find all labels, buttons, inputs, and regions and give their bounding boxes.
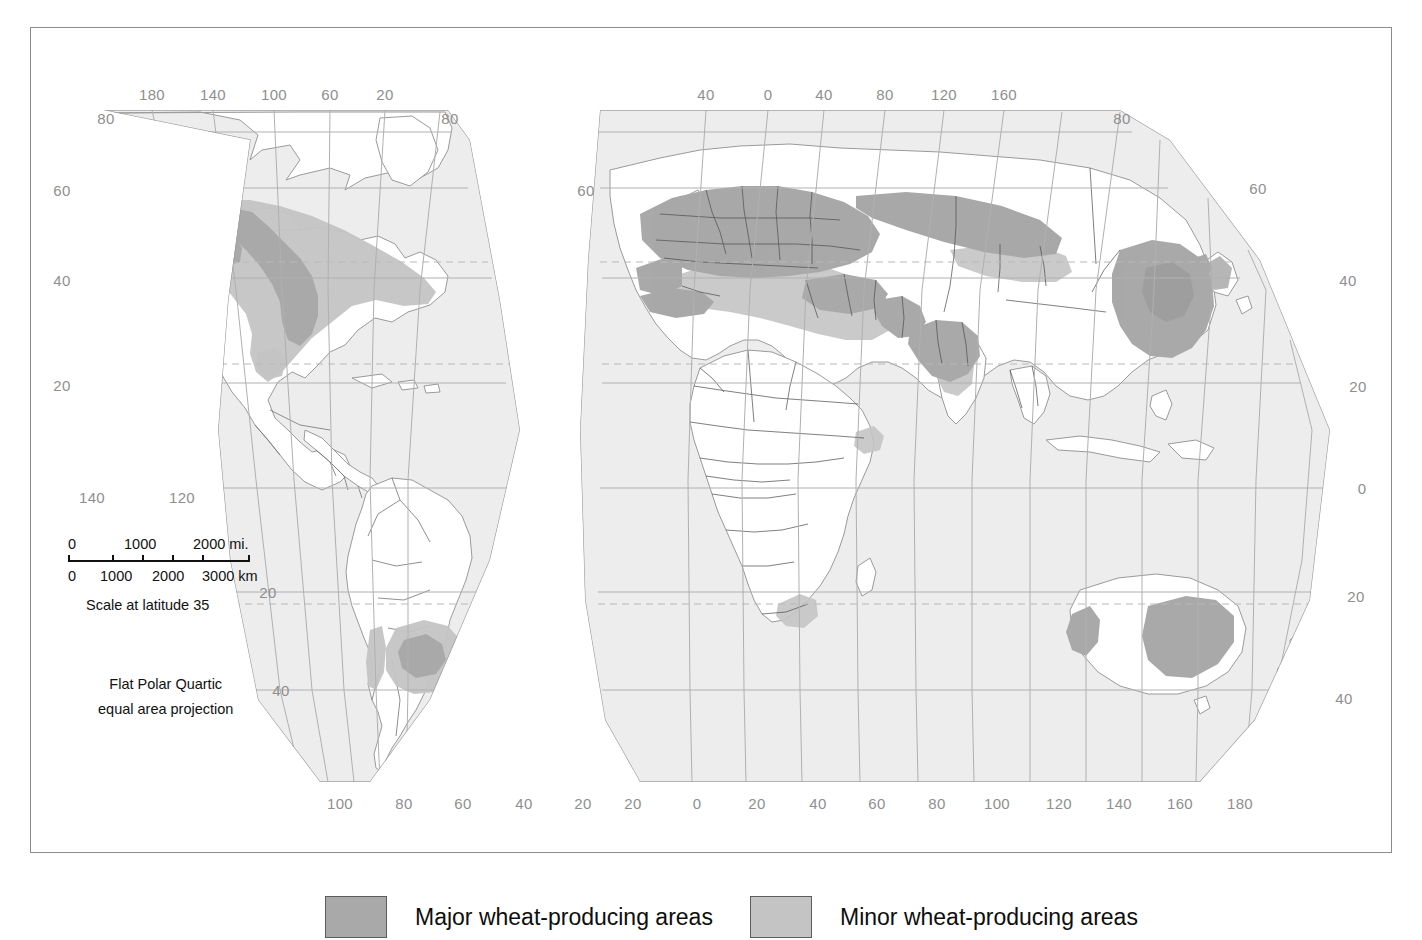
projection-type: equal area projection	[98, 697, 233, 722]
graticule-label-right-lat-4: 20	[1347, 588, 1364, 605]
graticule-label-top-right-lobe-3: 80	[876, 86, 893, 103]
scale-miles-1000: 1000	[124, 536, 156, 552]
legend-item-major: Major wheat-producing areas	[325, 896, 713, 938]
graticule-label-bottom-right-lobe-10: 180	[1227, 795, 1253, 812]
graticule-label-bottom-right-lobe-3: 40	[809, 795, 826, 812]
graticule-label-samerica-lat-1: 40	[272, 682, 289, 699]
graticule-label-top-left-lobe-3: 60	[321, 86, 338, 103]
graticule-label-right-lat-1: 40	[1339, 272, 1356, 289]
graticule-label-bottom-left-lobe-1: 80	[395, 795, 412, 812]
graticule-label-top-left-lobe-4: 20	[376, 86, 393, 103]
graticule-label-left-lat-1: 40	[53, 272, 70, 289]
graticule-label-top-right-lobe-5: 160	[991, 86, 1017, 103]
scale-latitude-note: Scale at latitude 35	[68, 597, 288, 613]
graticule-label-top-right-lobe-1: 0	[764, 86, 773, 103]
projection-note: Flat Polar Quartic equal area projection	[98, 672, 233, 722]
graticule-label-left-lat-0: 60	[53, 182, 70, 199]
legend-item-minor: Minor wheat-producing areas	[750, 896, 1138, 938]
scale-km-1000: 1000	[100, 568, 132, 584]
graticule-label-samerica-lon-1: 120	[169, 489, 195, 506]
graticule-label-top-left-lobe-0: 180	[139, 86, 165, 103]
graticule-label-bottom-left-lobe-2: 60	[454, 795, 471, 812]
graticule-label-bottom-right-lobe-8: 140	[1106, 795, 1132, 812]
scale-km-labels: 0 1000 2000 3000 km	[68, 568, 288, 586]
graticule-label-bottom-left-lobe-3: 20	[574, 795, 591, 812]
scale-km-2000: 2000	[152, 568, 184, 584]
graticule-label-right-lat-5: 40	[1335, 690, 1352, 707]
scale-km-0: 0	[68, 568, 76, 584]
graticule-label-bottom-right-lobe-9: 160	[1167, 795, 1193, 812]
graticule-label-upper-corner-lat-0: 80	[97, 110, 114, 127]
graticule-label-bottom-left-lobe-4: 40	[515, 795, 532, 812]
graticule-label-top-left-lobe-2: 100	[261, 86, 287, 103]
graticule-label-top-right-lobe-2: 40	[815, 86, 832, 103]
graticule-label-bottom-right-lobe-1: 0	[693, 795, 702, 812]
graticule-label-bottom-left-lobe-0: 100	[327, 795, 353, 812]
graticule-label-left-lat-2: 20	[53, 377, 70, 394]
graticule-label-bottom-right-lobe-5: 80	[928, 795, 945, 812]
scale-miles-0: 0	[68, 536, 76, 552]
scale-km-3000: 3000 km	[202, 568, 258, 584]
scale-miles-labels: 0 1000 2000 mi.	[68, 536, 288, 554]
graticule-label-upper-corner-lat-2: 80	[1113, 110, 1130, 127]
graticule-label-bottom-right-lobe-7: 120	[1046, 795, 1072, 812]
graticule-label-bottom-right-lobe-2: 20	[748, 795, 765, 812]
graticule-label-mid-left-lat-0: 60	[577, 182, 594, 199]
graticule-label-bottom-right-lobe-4: 60	[868, 795, 885, 812]
legend-label-minor: Minor wheat-producing areas	[840, 904, 1138, 931]
scale-bar-block: 0 1000 2000 mi. 0 1000 2000 3000 km Scal…	[68, 536, 288, 613]
graticule-label-bottom-right-lobe-0: 20	[624, 795, 641, 812]
scale-miles-2000: 2000 mi.	[193, 536, 249, 552]
graticule-label-right-lat-3: 0	[1358, 480, 1367, 497]
legend-label-major: Major wheat-producing areas	[415, 904, 713, 931]
world-map-graphic	[0, 0, 1422, 940]
legend-swatch-major	[325, 896, 387, 938]
graticule-label-upper-corner-lat-1: 80	[441, 110, 458, 127]
map-legend: Major wheat-producing areas Minor wheat-…	[0, 896, 1422, 940]
graticule-label-top-left-lobe-1: 140	[200, 86, 226, 103]
graticule-label-bottom-right-lobe-6: 100	[984, 795, 1010, 812]
legend-swatch-minor	[750, 896, 812, 938]
graticule-label-top-right-lobe-0: 40	[697, 86, 714, 103]
projection-name: Flat Polar Quartic	[98, 672, 233, 697]
graticule-label-top-right-lobe-4: 120	[931, 86, 957, 103]
graticule-label-samerica-lon-0: 140	[79, 489, 105, 506]
graticule-label-right-lat-2: 20	[1349, 378, 1366, 395]
scale-bar-graphic	[68, 555, 288, 566]
graticule-label-right-lat-0: 60	[1249, 180, 1266, 197]
